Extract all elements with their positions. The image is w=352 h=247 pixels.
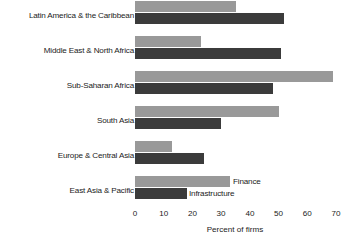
category-group: Europe & Central Asia (0, 140, 352, 170)
category-group: Sub-Saharan Africa (0, 70, 352, 100)
x-tick-label: 30 (217, 209, 226, 218)
category-group: South Asia (0, 105, 352, 135)
bar-finance (135, 176, 230, 187)
x-tick-label: 50 (274, 209, 283, 218)
x-tick-label: 0 (133, 209, 138, 218)
category-group: East Asia & Pacific (0, 175, 352, 205)
bar-infrastructure (135, 153, 204, 164)
bar-infrastructure (135, 188, 187, 199)
x-tick-label: 70 (331, 209, 340, 218)
bar-finance (135, 36, 201, 47)
category-group: Middle East & North Africa (0, 35, 352, 65)
x-axis: 0 10 20 30 40 50 60 70 Percent of firms (135, 207, 336, 247)
x-tick-label: 10 (159, 209, 168, 218)
category-label: Middle East & North Africa (2, 46, 134, 55)
plot-area: Latin America & the Caribbean Middle Eas… (0, 0, 352, 207)
bar-finance (135, 1, 236, 12)
category-label: Latin America & the Caribbean (2, 11, 134, 20)
bar-finance (135, 106, 279, 117)
bar-infrastructure (135, 118, 221, 129)
x-tick-label: 20 (188, 209, 197, 218)
bar-chart: Latin America & the Caribbean Middle Eas… (0, 0, 352, 247)
bar-infrastructure (135, 83, 273, 94)
x-axis-title: Percent of firms (207, 225, 264, 234)
x-tick-label: 60 (303, 209, 312, 218)
bar-finance (135, 141, 172, 152)
category-label: Sub-Saharan Africa (2, 81, 134, 90)
bar-infrastructure (135, 13, 284, 24)
x-tick-label: 40 (245, 209, 254, 218)
category-label: East Asia & Pacific (2, 186, 134, 195)
bar-infrastructure (135, 48, 281, 59)
category-label: South Asia (2, 116, 134, 125)
category-group: Latin America & the Caribbean (0, 0, 352, 30)
legend-label-finance: Finance (233, 177, 261, 186)
bar-finance (135, 71, 333, 82)
legend-label-infrastructure: Infrastructure (189, 189, 234, 198)
category-label: Europe & Central Asia (2, 151, 134, 160)
